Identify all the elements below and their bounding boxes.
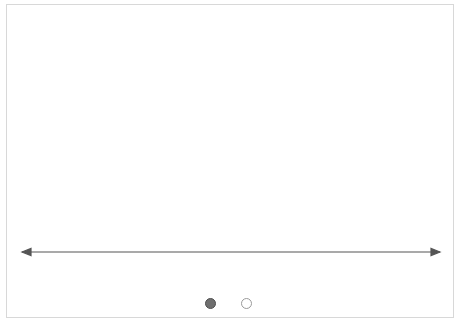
open-circle-icon <box>241 298 252 309</box>
x-axis-line <box>22 248 440 255</box>
scatter-plot-canvas <box>0 0 462 328</box>
legend-item-static-jump <box>205 297 221 311</box>
filled-circle-icon <box>205 298 216 309</box>
chart-legend <box>0 296 462 311</box>
legend-item-counter-movement-jump <box>241 297 257 311</box>
